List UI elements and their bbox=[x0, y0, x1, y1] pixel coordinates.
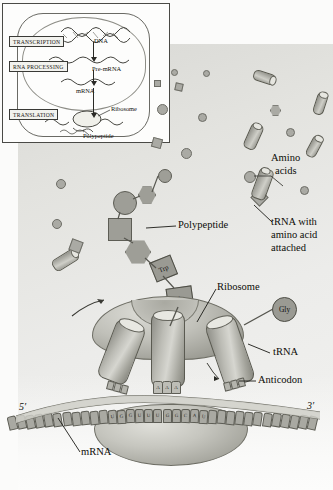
label-trna-with-aa-line3: attached bbox=[271, 242, 306, 254]
label-anticodon: Anticodon bbox=[258, 374, 302, 386]
anticodon-base: A bbox=[171, 381, 181, 394]
label-mrna: mRNA bbox=[81, 446, 111, 458]
label-amino-acids-line1: Amino bbox=[271, 152, 300, 164]
label-trna: tRNA bbox=[273, 346, 298, 358]
label-polypeptide: Polypeptide bbox=[178, 219, 228, 231]
label-amino-acids-line2: acids bbox=[275, 165, 297, 177]
label-trna-with-aa-line2: amino acid bbox=[271, 229, 317, 241]
label-ribosome: Ribosome bbox=[217, 281, 260, 293]
label-three-prime: 3′ bbox=[307, 400, 314, 411]
label-five-prime: 5′ bbox=[19, 401, 26, 412]
label-trna-with-aa-line1: tRNA with bbox=[271, 216, 317, 228]
translation-diagram: TRANSCRIPTION RNA PROCESSING TRANSLATION… bbox=[0, 0, 333, 490]
